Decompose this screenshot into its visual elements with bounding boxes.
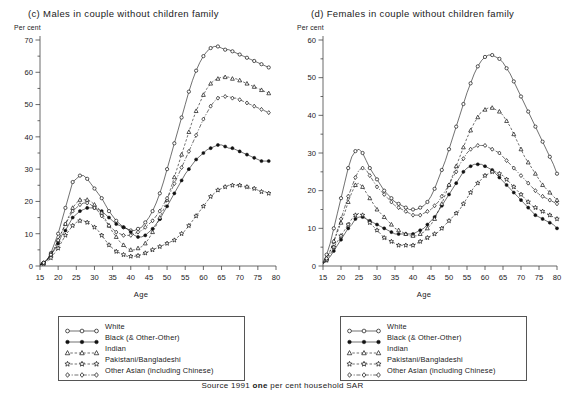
legend-item-pakistani: Pakistani/Bangladeshi bbox=[345, 354, 520, 365]
svg-text:70: 70 bbox=[235, 273, 243, 282]
legend-marker-open-triangle-icon bbox=[345, 344, 383, 354]
legend-label: Pakistani/Bangladeshi bbox=[101, 355, 181, 364]
svg-text:60: 60 bbox=[481, 273, 489, 282]
source-note: Source 1991 one per cent household SAR bbox=[0, 381, 565, 390]
legend-label: Indian bbox=[383, 344, 408, 353]
svg-text:30: 30 bbox=[90, 273, 98, 282]
legend-item-other-asian: Other Asian (including Chinese) bbox=[63, 365, 238, 376]
legend-item-black: Black (& Other-Other) bbox=[345, 332, 520, 343]
svg-text:50: 50 bbox=[308, 73, 316, 82]
legend-item-black: Black (& Other-Other) bbox=[63, 332, 238, 343]
legend-item-indian: Indian bbox=[63, 343, 238, 354]
legend-marker-open-diamond-icon bbox=[63, 366, 101, 376]
legend-marker-open-triangle-icon bbox=[63, 344, 101, 354]
svg-text:65: 65 bbox=[217, 273, 225, 282]
legend-label: Black (& Other-Other) bbox=[101, 333, 180, 342]
svg-text:60: 60 bbox=[308, 36, 316, 45]
source-pre: Source 1991 bbox=[201, 381, 252, 390]
svg-text:25: 25 bbox=[72, 273, 80, 282]
svg-text:35: 35 bbox=[108, 273, 116, 282]
svg-text:75: 75 bbox=[535, 273, 543, 282]
svg-text:60: 60 bbox=[199, 273, 207, 282]
legend-item-pakistani: Pakistani/Bangladeshi bbox=[63, 354, 238, 365]
svg-text:55: 55 bbox=[181, 273, 189, 282]
svg-text:80: 80 bbox=[272, 273, 280, 282]
svg-text:70: 70 bbox=[517, 273, 525, 282]
panel-females-xaxis-label: Age bbox=[283, 290, 565, 299]
svg-text:10: 10 bbox=[25, 230, 33, 239]
svg-text:75: 75 bbox=[254, 273, 262, 282]
svg-text:15: 15 bbox=[319, 273, 327, 282]
svg-text:55: 55 bbox=[463, 273, 471, 282]
svg-text:0: 0 bbox=[312, 262, 316, 271]
legend-marker-open-star-icon bbox=[345, 355, 383, 365]
legend-marker-open-diamond-icon bbox=[345, 366, 383, 376]
svg-text:10: 10 bbox=[308, 224, 316, 233]
legend-label: Pakistani/Bangladeshi bbox=[383, 355, 463, 364]
svg-text:65: 65 bbox=[499, 273, 507, 282]
legend-marker-open-star-icon bbox=[63, 355, 101, 365]
legend-label: Black (& Other-Other) bbox=[383, 333, 462, 342]
svg-text:80: 80 bbox=[553, 273, 561, 282]
panel-males-yaxis-unit: Per cent bbox=[14, 24, 41, 31]
panel-females-yaxis-unit: Per cent bbox=[297, 24, 324, 31]
panel-females-title: (d) Females in couple without children f… bbox=[311, 8, 514, 19]
svg-text:30: 30 bbox=[25, 165, 33, 174]
svg-text:40: 40 bbox=[25, 133, 33, 142]
svg-text:50: 50 bbox=[163, 273, 171, 282]
panel-females-plot: 1520253035404550556065707580010203040506… bbox=[283, 32, 565, 292]
legend-label: Other Asian (including Chinese) bbox=[101, 366, 214, 375]
svg-text:20: 20 bbox=[337, 273, 345, 282]
svg-text:20: 20 bbox=[308, 186, 316, 195]
svg-text:70: 70 bbox=[25, 36, 33, 45]
legend-item-white: White bbox=[63, 321, 238, 332]
legend-label: Indian bbox=[101, 344, 126, 353]
legend-females: WhiteBlack (& Other-Other)IndianPakistan… bbox=[340, 316, 527, 381]
svg-text:30: 30 bbox=[308, 149, 316, 158]
legend-label: Other Asian (including Chinese) bbox=[383, 366, 496, 375]
legend-label: White bbox=[101, 322, 125, 331]
panel-males-xaxis-label: Age bbox=[0, 290, 282, 299]
svg-text:40: 40 bbox=[308, 111, 316, 120]
svg-text:15: 15 bbox=[36, 273, 44, 282]
svg-text:0: 0 bbox=[29, 262, 33, 271]
legend-marker-open-circle-icon bbox=[345, 322, 383, 332]
svg-text:50: 50 bbox=[445, 273, 453, 282]
panel-females: (d) Females in couple without children f… bbox=[283, 0, 565, 300]
svg-text:20: 20 bbox=[54, 273, 62, 282]
legend-item-other-asian: Other Asian (including Chinese) bbox=[345, 365, 520, 376]
legend-label: White bbox=[383, 322, 407, 331]
legend-marker-filled-circle-icon bbox=[63, 333, 101, 343]
source-post: per cent household SAR bbox=[268, 381, 364, 390]
svg-text:25: 25 bbox=[355, 273, 363, 282]
source-emphasis: one bbox=[253, 381, 268, 390]
svg-text:30: 30 bbox=[373, 273, 381, 282]
svg-text:20: 20 bbox=[25, 197, 33, 206]
panel-males-title: (c) Males in couple without children fam… bbox=[28, 8, 219, 19]
legend-item-indian: Indian bbox=[345, 343, 520, 354]
svg-text:45: 45 bbox=[145, 273, 153, 282]
svg-text:35: 35 bbox=[391, 273, 399, 282]
legend-marker-filled-circle-icon bbox=[345, 333, 383, 343]
legend-males: WhiteBlack (& Other-Other)IndianPakistan… bbox=[58, 316, 245, 381]
panel-males-plot: 1520253035404550556065707580010203040506… bbox=[0, 32, 282, 292]
legend-marker-open-circle-icon bbox=[63, 322, 101, 332]
svg-text:60: 60 bbox=[25, 68, 33, 77]
panel-males: (c) Males in couple without children fam… bbox=[0, 0, 282, 300]
legend-item-white: White bbox=[345, 321, 520, 332]
svg-text:50: 50 bbox=[25, 100, 33, 109]
svg-text:40: 40 bbox=[127, 273, 135, 282]
svg-text:45: 45 bbox=[427, 273, 435, 282]
svg-text:40: 40 bbox=[409, 273, 417, 282]
